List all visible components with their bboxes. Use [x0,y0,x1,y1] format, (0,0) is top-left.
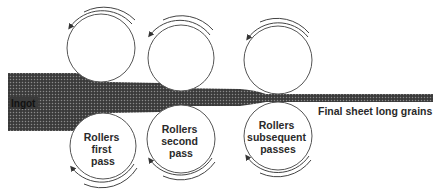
final-sheet-label: Final sheet long grains [318,105,433,117]
top-roller-subsequent [244,26,312,94]
top-roller-second [148,25,214,91]
top-roller-first [67,14,135,82]
ingot-label: Ingot [11,98,36,109]
rolling-diagram: Ingot Rollers first pass Rollers second … [0,0,443,196]
metal-sheet [8,73,433,131]
